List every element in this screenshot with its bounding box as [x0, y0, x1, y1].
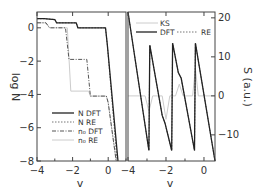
x-tick-label: −2 — [65, 165, 80, 176]
left-ticks: −4−200−2−4−6−8 — [19, 12, 126, 176]
left-ylabel: log N — [9, 73, 22, 102]
legend-label-dft: DFT — [160, 28, 175, 37]
right-legend-row2: DFT RE — [136, 28, 211, 37]
right-ticks: −4−2020100−10 — [121, 12, 239, 176]
right-xlabel: v — [167, 177, 174, 190]
y-tick-label: −6 — [19, 122, 34, 133]
y-tick-label: −10 — [218, 129, 239, 140]
series-n0-dft — [37, 23, 116, 161]
x-tick-label: 0 — [201, 165, 207, 176]
right-panel: −4−2020100−10 S (a.u.) v KS DFT RE — [121, 12, 254, 190]
left-xlabel: v — [77, 177, 84, 190]
legend-label-re: RE — [201, 28, 211, 37]
series-n0-re — [37, 23, 116, 161]
legend-label-n0-dft: n₀ DFT — [78, 127, 103, 136]
legend-label-n0-re: n₀ RE — [78, 136, 98, 145]
right-legend: KS — [136, 19, 170, 28]
y-tick-label: −8 — [19, 156, 34, 167]
right-ylabel: S (a.u.) — [241, 67, 254, 107]
y-tick-label: 10 — [218, 51, 231, 62]
x-tick-label: −4 — [30, 165, 45, 176]
y-tick-label: 0 — [28, 22, 34, 33]
left-legend: N DFT N RE n₀ DFT n₀ RE — [52, 109, 103, 145]
x-tick-label: 0 — [105, 165, 111, 176]
x-tick-label: −2 — [159, 165, 174, 176]
legend-label-n-re: N RE — [78, 118, 96, 127]
legend-label-ks: KS — [160, 19, 170, 28]
y-tick-label: −2 — [19, 56, 34, 67]
left-panel: −4−200−2−4−6−8 log N v N DFT N RE n₀ DFT… — [9, 12, 126, 190]
legend-label-n-dft: N DFT — [78, 109, 101, 118]
x-tick-label: −4 — [121, 165, 136, 176]
y-tick-label: 20 — [218, 12, 231, 23]
figure: −4−200−2−4−6−8 log N v N DFT N RE n₀ DFT… — [0, 0, 257, 193]
y-tick-label: 0 — [218, 90, 224, 101]
